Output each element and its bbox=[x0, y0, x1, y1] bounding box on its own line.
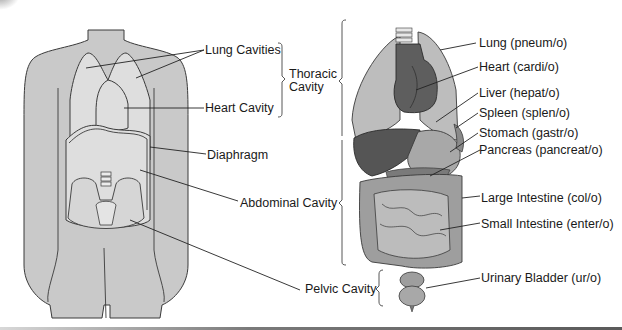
label-lung: Lung (pneum/o) bbox=[479, 36, 567, 50]
label-stomach: Stomach (gastr/o) bbox=[479, 126, 578, 140]
label-abdominal-cavity: Abdominal Cavity bbox=[240, 196, 337, 210]
label-lung-cavities: Lung Cavities bbox=[205, 43, 281, 57]
label-liver: Liver (hepat/o) bbox=[479, 86, 560, 100]
label-heart-cavity: Heart Cavity bbox=[205, 101, 274, 115]
label-diaphragm: Diaphragm bbox=[207, 148, 268, 162]
label-heart: Heart (cardi/o) bbox=[479, 60, 559, 74]
label-large-intestine: Large Intestine (col/o) bbox=[481, 191, 602, 205]
label-spleen: Spleen (splen/o) bbox=[479, 106, 570, 120]
label-pelvic-cavity: Pelvic Cavity bbox=[305, 282, 377, 296]
urinary-bladder-shape bbox=[399, 272, 425, 312]
label-small-intestine: Small Intestine (enter/o) bbox=[481, 217, 614, 231]
pelvis-shape bbox=[68, 172, 144, 229]
small-intestine-shape bbox=[374, 190, 450, 259]
label-pancreas: Pancreas (pancreat/o) bbox=[479, 143, 603, 157]
label-urinary-bladder: Urinary Bladder (ur/o) bbox=[481, 271, 601, 285]
label-thoracic-cavity: Thoracic Cavity bbox=[289, 68, 337, 94]
label-thoracic-line2: Cavity bbox=[289, 81, 337, 94]
